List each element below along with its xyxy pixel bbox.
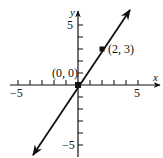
x-axis-label: x bbox=[152, 71, 158, 83]
y-tick-label-neg5: −5 bbox=[62, 138, 75, 152]
y-axis-label: y bbox=[69, 6, 75, 18]
point-2-3 bbox=[100, 47, 105, 52]
x-tick-label-neg5: −5 bbox=[10, 86, 23, 100]
point-origin bbox=[75, 82, 81, 88]
y-tick-label-5: 5 bbox=[67, 18, 73, 32]
x-tick-label-5: 5 bbox=[134, 86, 140, 100]
coordinate-plane: x y −5 5 5 −5 (0, 0) (2, 3) bbox=[0, 0, 163, 158]
origin-point-label: (0, 0) bbox=[52, 66, 78, 80]
point-2-3-label: (2, 3) bbox=[108, 42, 134, 56]
